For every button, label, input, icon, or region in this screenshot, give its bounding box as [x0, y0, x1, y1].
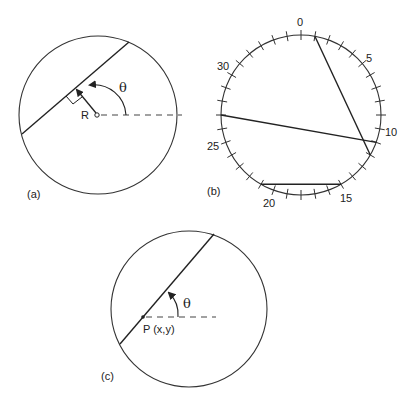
- panel-b-caption: (b): [207, 185, 220, 197]
- panel-b-tick-label-30: 30: [217, 60, 229, 72]
- panel-c: θ P (x,y) (c): [101, 231, 267, 387]
- panel-b-chord: [315, 36, 370, 155]
- panel-c-theta-label: θ: [183, 296, 191, 311]
- panel-b-tick-label-15: 15: [340, 192, 352, 204]
- panel-b-tick-mark: [227, 153, 236, 158]
- panel-b-tick-mark: [227, 73, 236, 78]
- panel-b-tick-mark: [366, 73, 375, 78]
- panel-a-caption: (a): [27, 188, 40, 200]
- panel-a-right-angle-marker: [66, 96, 82, 104]
- panel-b-tick-mark: [339, 41, 344, 50]
- panel-a-projection-line: [22, 42, 129, 134]
- panel-b-tick-label-10: 10: [385, 126, 397, 138]
- panel-b-tick-label-25: 25: [207, 140, 219, 152]
- panel-c-angle-arc: [169, 293, 178, 317]
- panel-a: θ R (a): [19, 36, 182, 200]
- panel-b-tick-mark: [259, 41, 264, 50]
- panel-b-tick-label-5: 5: [366, 52, 372, 64]
- panel-c-point-label: P (x,y): [143, 323, 175, 335]
- panel-b-circle: [221, 35, 381, 195]
- panel-c-caption: (c): [101, 370, 114, 382]
- panel-a-theta-label: θ: [119, 80, 127, 95]
- tomography-geometry-figure: θ R (a) 0 5 10 15 20 25 30 (b) θ P (x,y): [0, 0, 413, 406]
- panel-c-point-p: [141, 315, 145, 319]
- panel-a-radius-label: R: [81, 109, 89, 121]
- panel-b-ticks: [216, 30, 386, 200]
- panel-b: 0 5 10 15 20 25 30 (b): [207, 16, 397, 209]
- panel-b-tick-label-0: 0: [297, 16, 303, 28]
- panel-b-tick-label-20: 20: [263, 197, 275, 209]
- panel-a-origin-dot: [95, 113, 99, 117]
